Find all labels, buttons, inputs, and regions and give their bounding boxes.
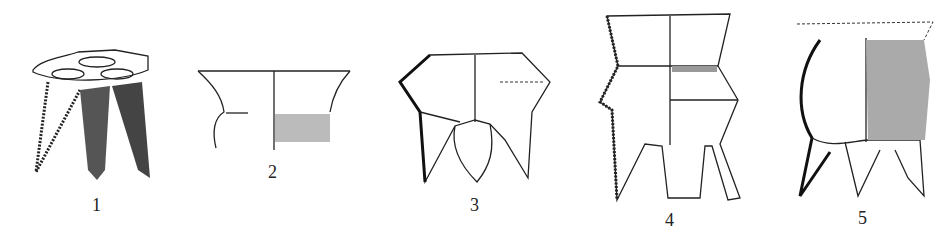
vessel-5-label: 5	[858, 208, 867, 229]
vessel-5-drawing	[797, 22, 933, 196]
vessel-1-drawing	[33, 50, 150, 180]
vessel-4-label: 4	[665, 210, 674, 231]
vessel-4-drawing	[600, 14, 740, 200]
vessel-2-label: 2	[268, 162, 277, 183]
vessel-1-label: 1	[92, 195, 101, 216]
vessel-3-label: 3	[470, 195, 479, 216]
vessel-3-drawing	[400, 53, 550, 182]
vessel-2-drawing	[198, 71, 350, 150]
